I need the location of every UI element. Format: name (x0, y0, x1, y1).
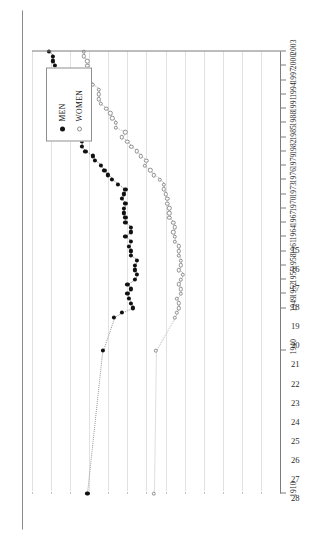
year-tick-1994 (281, 93, 286, 94)
legend-marker-open-circle-icon (77, 126, 82, 131)
data-point-men-1979 (99, 163, 103, 167)
data-point-men-1964 (123, 234, 127, 238)
year-tick-1949 (281, 307, 286, 308)
data-point-men-1953 (129, 287, 133, 291)
data-point-men-1910 (85, 491, 89, 495)
year-tick-label-1961: 1961 (289, 239, 298, 255)
value-tick-label-22: 22 (291, 378, 300, 388)
data-point-women-1960 (177, 253, 181, 257)
year-tick-label-1940: 1940 (289, 338, 298, 354)
year-tick-1982 (281, 150, 286, 151)
data-point-men-1966 (129, 225, 133, 229)
data-point-men-1971 (123, 201, 127, 205)
data-point-women-1949 (177, 305, 181, 309)
year-tick-label-1952: 1952 (289, 281, 298, 297)
data-point-women-1968 (167, 215, 171, 219)
legend-label-men: MEN (58, 103, 67, 121)
data-point-men-1983 (80, 144, 84, 148)
data-point-women-1958 (179, 263, 183, 267)
gridline-value-17 (242, 51, 243, 493)
data-point-men-1947 (112, 315, 116, 319)
gridline-value-23 (127, 51, 128, 493)
legend-marker-filled-circle-icon (60, 126, 65, 131)
year-tick-label-1985: 1985 (289, 124, 298, 140)
year-tick-label-1949: 1949 (289, 296, 298, 312)
data-point-women-1987 (114, 125, 118, 129)
data-point-men-1959 (135, 258, 139, 262)
year-tick-label-1967: 1967 (289, 210, 298, 226)
data-point-men-1940 (100, 348, 104, 352)
data-point-men-1965 (129, 230, 133, 234)
year-tick-label-1979: 1979 (289, 153, 298, 169)
year-tick-label-1973: 1973 (289, 182, 298, 198)
value-tick-label-23: 23 (291, 397, 300, 407)
data-point-men-1978 (102, 168, 106, 172)
year-tick-label-1997: 1997 (289, 67, 298, 83)
data-point-women-1961 (177, 248, 181, 252)
data-point-men-1968 (123, 215, 127, 219)
data-point-men-1954 (125, 282, 129, 286)
data-point-men-1952 (125, 291, 129, 295)
year-tick-1991 (281, 107, 286, 108)
value-tick-label-19: 19 (291, 320, 300, 330)
gridline-value-20 (185, 51, 186, 493)
data-point-women-1994 (97, 92, 101, 96)
data-point-men-1972 (120, 196, 124, 200)
year-tick-1970 (281, 207, 286, 208)
value-axis-line (280, 51, 281, 493)
series-connector-women (154, 350, 157, 493)
data-point-women-1992 (98, 101, 102, 105)
data-point-women-1971 (165, 201, 169, 205)
data-point-men-1962 (127, 244, 131, 248)
year-tick-1967 (281, 221, 286, 222)
year-tick-label-1976: 1976 (289, 167, 298, 183)
data-point-women-1910 (152, 491, 156, 495)
data-point-women-1963 (173, 239, 177, 243)
data-point-men-1980 (93, 158, 97, 162)
value-tick-label-25: 25 (291, 435, 300, 445)
data-point-men-1970 (121, 206, 125, 210)
year-tick-label-1958: 1958 (289, 253, 298, 269)
gridline-value-18 (223, 51, 224, 493)
year-tick-1952 (281, 292, 286, 293)
legend-item-women: WOMEN (75, 89, 84, 131)
data-point-men-1958 (133, 263, 137, 267)
year-tick-label-1910: 1910 (289, 481, 298, 497)
data-point-women-1988 (114, 120, 118, 124)
data-point-women-1953 (179, 286, 183, 290)
data-point-men-1981 (91, 153, 95, 157)
data-point-men-1974 (123, 187, 127, 191)
chart-figure: 2827262524232221201918171615 19101940194… (0, 0, 336, 539)
data-point-women-1980 (144, 158, 148, 162)
gridline-value-19 (204, 51, 205, 493)
data-point-women-1982 (135, 149, 139, 153)
chart-legend: MENWOMEN (46, 67, 92, 141)
gridline-value-28 (32, 51, 33, 493)
year-tick-1997 (281, 79, 286, 80)
year-tick-1910 (281, 492, 286, 493)
year-tick-1958 (281, 264, 286, 265)
year-tick-label-1970: 1970 (289, 196, 298, 212)
data-point-women-1976 (158, 177, 162, 181)
year-tick-1961 (281, 250, 286, 251)
data-point-women-1981 (139, 153, 143, 157)
data-point-women-2002 (81, 54, 85, 58)
year-tick-label-1988: 1988 (289, 110, 298, 126)
value-tick-label-24: 24 (291, 416, 300, 426)
data-point-women-1969 (167, 210, 171, 214)
year-tick-1976 (281, 178, 286, 179)
data-point-men-1955 (133, 277, 137, 281)
data-point-women-1989 (110, 115, 114, 119)
data-point-men-1977 (106, 172, 110, 176)
value-tick-label-26: 26 (291, 454, 300, 464)
year-tick-1973 (281, 193, 286, 194)
year-tick-label-1991: 1991 (289, 96, 298, 112)
data-point-men-1982 (83, 149, 87, 153)
year-tick-label-1982: 1982 (289, 139, 298, 155)
value-tick-label-21: 21 (291, 358, 300, 368)
data-point-women-1990 (108, 111, 112, 115)
chart-figure-rotator: 2827262524232221201918171615 19101940194… (0, 0, 336, 539)
data-point-men-1949 (131, 306, 135, 310)
year-tick-label-2000: 2000 (289, 53, 298, 69)
data-point-women-1978 (148, 168, 152, 172)
